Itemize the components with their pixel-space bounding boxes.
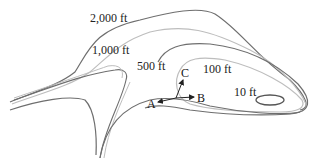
contour-label-1000ft: 1,000 ft [92,44,129,56]
vector-label-b: B [197,92,205,104]
vector-label-c: C [181,67,189,79]
contour-label-2000ft: 2,000 ft [90,12,127,24]
contour-2000ft-left-lower [10,98,96,155]
vector-label-a: A [147,98,156,110]
contour-label-100ft: 100 ft [203,63,231,75]
contour-label-10ft: 10 ft [234,86,256,98]
contour-10ft [256,95,284,105]
contour-lines [0,0,318,161]
contour-500ft-right [145,44,308,115]
contour-lower-through-point [100,98,300,158]
vector-b-arrow [176,97,194,98]
contour-map-diagram: 2,000 ft 1,000 ft 500 ft 100 ft 10 ft A … [0,0,318,161]
contour-label-500ft: 500 ft [137,60,165,72]
